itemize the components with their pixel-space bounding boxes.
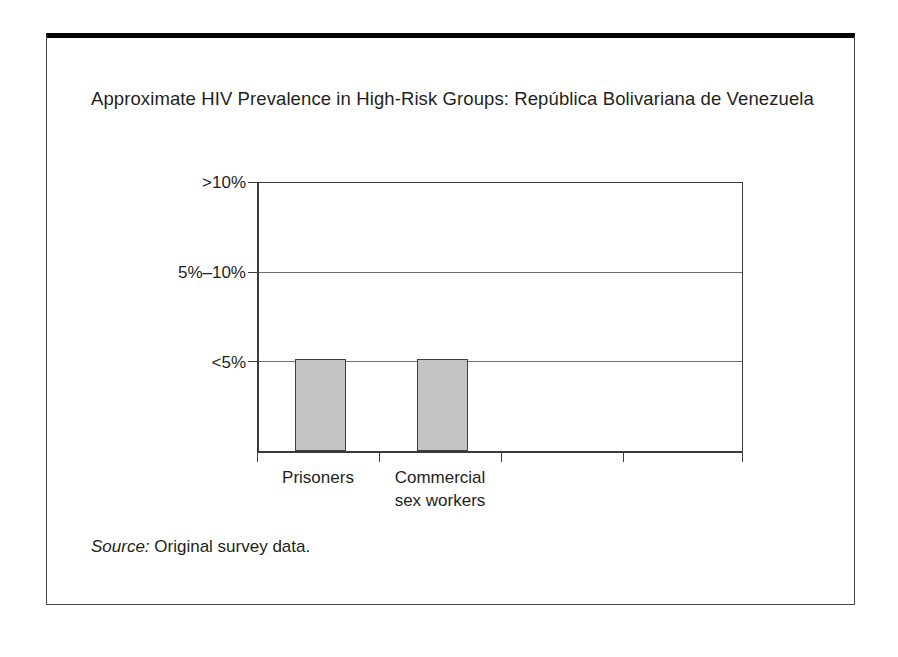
- x-tick-mark-0: [257, 453, 258, 462]
- source-note: Source: Original survey data.: [91, 536, 310, 558]
- y-tick-mark-lt5: [248, 361, 257, 362]
- y-axis-label-lt5: <5%: [212, 354, 247, 371]
- plot-area: [257, 182, 743, 453]
- gridline-5to10: [259, 272, 742, 273]
- bar-prisoners: [295, 359, 346, 451]
- bar-commercial-sex-workers: [417, 359, 468, 451]
- source-note-text: Original survey data.: [150, 537, 311, 556]
- figure-frame: Approximate HIV Prevalence in High-Risk …: [46, 33, 855, 605]
- y-tick-mark-gt10: [248, 182, 257, 183]
- x-tick-mark-4: [742, 453, 743, 462]
- source-note-label: Source:: [91, 537, 150, 556]
- x-axis-label-line-1: Commercial: [379, 466, 501, 489]
- y-tick-mark-5to10: [248, 272, 257, 273]
- x-axis-label-line-2: sex workers: [379, 489, 501, 512]
- x-tick-mark-1: [379, 453, 380, 462]
- x-axis-ticks: [257, 453, 744, 465]
- x-axis-label-prisoners: Prisoners: [257, 466, 379, 489]
- y-axis-label-5to10: 5%–10%: [178, 264, 246, 281]
- x-axis-label-commercial-sex-workers: Commercial sex workers: [379, 466, 501, 512]
- y-axis-label-gt10: >10%: [202, 174, 246, 191]
- x-tick-mark-3: [623, 453, 624, 462]
- x-tick-mark-2: [501, 453, 502, 462]
- x-axis-labels: Prisoners Commercial sex workers: [257, 466, 744, 526]
- y-axis-labels: >10% 5%–10% <5%: [107, 182, 246, 453]
- chart-plot-wrapper: >10% 5%–10% <5% Prisoners Com: [47, 38, 856, 610]
